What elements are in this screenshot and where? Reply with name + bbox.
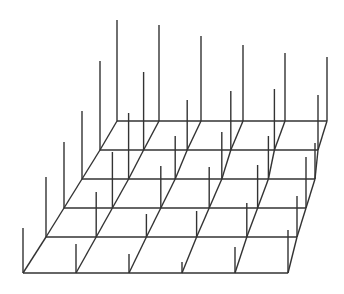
grid-column-line	[182, 237, 197, 273]
grid-column-line	[209, 179, 222, 208]
grid-column-line	[23, 237, 46, 273]
grid-column-line	[297, 208, 306, 237]
spike-grid-diagram	[0, 0, 344, 294]
grid-column-line	[274, 121, 285, 150]
grid-column-line	[129, 150, 144, 179]
grid-column-line	[187, 121, 201, 150]
grid-column-line	[222, 150, 231, 179]
grid-column-line	[161, 179, 175, 208]
grid-column-line	[288, 237, 297, 273]
grid-column-line	[46, 208, 64, 237]
grid-column-line	[96, 208, 112, 237]
grid-column-line	[268, 150, 274, 179]
grid-column-line	[197, 208, 210, 237]
grid-column-line	[318, 121, 327, 150]
grid-column-line	[235, 237, 247, 273]
oblique-grid-plot	[0, 0, 344, 294]
grid-column-line	[129, 237, 146, 273]
grid-column-line	[247, 208, 258, 237]
grid-column-line	[100, 121, 117, 150]
grid-column-line	[231, 121, 243, 150]
spikes	[23, 20, 327, 273]
grid-column-line	[76, 237, 96, 273]
grid-column-line	[112, 179, 128, 208]
grid-column-line	[175, 150, 187, 179]
grid-column-line	[146, 208, 160, 237]
grid-column-line	[144, 121, 159, 150]
grid-column-line	[258, 179, 269, 208]
grid-column-line	[64, 179, 82, 208]
grid-column-line	[306, 179, 315, 208]
grid-column-line	[82, 150, 100, 179]
